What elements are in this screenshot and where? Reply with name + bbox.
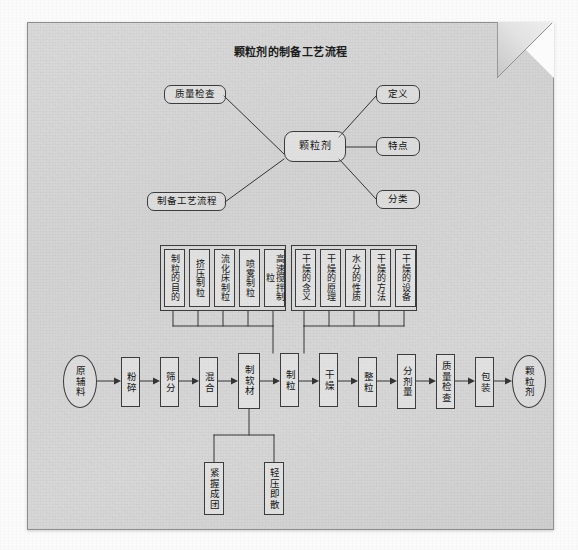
mindmap-node-quality-inspection[interactable]: 质量检查 [164,85,226,104]
process-step-dose-dividing[interactable]: 分剂量 [397,354,416,409]
process-step-granule-product[interactable]: 颗粒剂 [512,355,546,408]
process-step-soft-material[interactable]: 制软材 [238,353,260,409]
process-step-drying[interactable]: 干燥 [319,353,338,407]
criteria-item-crumbles[interactable]: 轻压即散 [264,462,284,515]
criteria-item-holds-shape[interactable]: 紧握成团 [204,462,224,515]
process-step-sizing[interactable]: 整粒 [358,357,377,407]
drying-item-moisture-properties[interactable]: 水分的性质 [345,249,366,307]
page-title: 颗粒剂的制备工艺流程 [28,43,553,59]
drying-item-equipment[interactable]: 干燥的设备 [395,249,416,307]
process-step-granulating[interactable]: 制粒 [280,353,299,407]
process-step-sieving[interactable]: 筛分 [160,357,179,407]
mindmap-node-definition[interactable]: 定义 [376,85,420,104]
granulation-item-fluid-bed[interactable]: 流化床制粒 [214,249,235,307]
granulation-item-purpose[interactable]: 制粒的目的 [164,249,185,307]
process-step-packaging[interactable]: 包装 [475,357,494,407]
mindmap-hub-node[interactable]: 颗粒剂 [284,131,346,162]
granulation-item-extrusion[interactable]: 挤压制粒 [189,249,210,307]
process-step-pulverizing[interactable]: 粉碎 [121,357,140,407]
process-step-quality-inspection[interactable]: 质量检查 [436,354,455,409]
paper-sheet: 颗粒剂的制备工艺流程 质量检查 定义 颗粒剂 特点 制备工艺流程 分类 制粒的目… [27,22,554,530]
process-step-raw-materials-label: 原辅料 [75,366,85,398]
flow-diagram: 颗粒剂的制备工艺流程 质量检查 定义 颗粒剂 特点 制备工艺流程 分类 制粒的目… [28,23,553,529]
granulation-item-high-shear[interactable]: 高速搅拌制粒 [264,249,285,307]
mindmap-node-process-flow[interactable]: 制备工艺流程 [147,192,226,211]
process-step-raw-materials[interactable]: 原辅料 [63,355,97,408]
drying-item-definition[interactable]: 干燥的含义 [295,249,316,307]
drying-item-principle[interactable]: 干燥的原理 [320,249,341,307]
granulation-item-spray[interactable]: 喷雾制粒 [239,249,260,307]
mindmap-node-features[interactable]: 特点 [376,137,420,156]
process-step-granule-product-label: 颗粒剂 [524,366,534,398]
process-step-mixing[interactable]: 混合 [199,357,218,407]
drying-item-methods[interactable]: 干燥的方法 [370,249,391,307]
mindmap-node-classification[interactable]: 分类 [376,190,420,209]
